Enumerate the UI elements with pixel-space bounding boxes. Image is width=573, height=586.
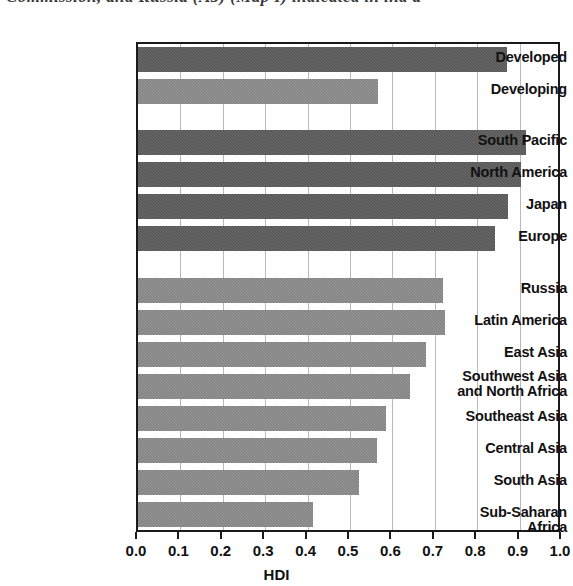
- category-label: South Asia: [443, 473, 573, 488]
- category-label-line: and North Africa: [443, 384, 567, 399]
- x-tick-label: 0.0: [114, 542, 158, 559]
- bar-row: [138, 79, 378, 104]
- category-label: Europe: [443, 229, 573, 244]
- x-axis-title: HDI: [0, 566, 573, 583]
- category-label: Latin America: [443, 313, 573, 328]
- category-label-line: South Pacific: [443, 133, 567, 148]
- category-label-line: Southwest Asia: [443, 369, 567, 384]
- category-label: Developed: [443, 50, 573, 65]
- x-tick-mark: [559, 532, 561, 539]
- x-tick-mark: [389, 532, 391, 539]
- category-label-line: Russia: [443, 281, 567, 296]
- x-tick-label: 0.6: [368, 542, 412, 559]
- category-label: South Pacific: [443, 133, 573, 148]
- bar-row: [138, 374, 410, 399]
- x-tick-mark: [262, 532, 264, 539]
- category-label: Southeast Asia: [443, 409, 573, 424]
- bar-row: [138, 406, 386, 431]
- category-label: Japan: [443, 197, 573, 212]
- bar-developing: [138, 79, 378, 104]
- x-tick-label: 0.8: [453, 542, 497, 559]
- bar-east-asia: [138, 342, 426, 367]
- x-tick-mark: [432, 532, 434, 539]
- x-tick-mark: [305, 532, 307, 539]
- x-tick-label: 0.7: [411, 542, 455, 559]
- category-label-line: Sub-Saharan Africa: [443, 505, 567, 535]
- x-tick-label: 0.1: [156, 542, 200, 559]
- bar-row: [138, 502, 313, 527]
- bar-row: [138, 438, 377, 463]
- bar-sub-saharan-africa: [138, 502, 313, 527]
- x-tick-label: 0.9: [496, 542, 540, 559]
- category-label-line: East Asia: [443, 345, 567, 360]
- bar-row: [138, 226, 495, 251]
- x-tick-mark: [220, 532, 222, 539]
- x-tick-mark: [347, 532, 349, 539]
- category-label: Developing: [443, 82, 573, 97]
- category-label-line: South Asia: [443, 473, 567, 488]
- category-label: Southwest Asiaand North Africa: [443, 369, 573, 399]
- bar-row: [138, 278, 443, 303]
- x-tick-label: 0.2: [199, 542, 243, 559]
- x-tick-mark: [177, 532, 179, 539]
- x-tick-mark: [135, 532, 137, 539]
- x-tick-label: 0.3: [241, 542, 285, 559]
- category-label-line: Europe: [443, 229, 567, 244]
- category-label: Russia: [443, 281, 573, 296]
- category-label-line: Latin America: [443, 313, 567, 328]
- hdi-bar-chart: DevelopedDevelopingSouth PacificNorth Am…: [0, 0, 573, 586]
- category-label: Sub-Saharan Africa: [443, 505, 573, 535]
- category-label: North America: [443, 165, 573, 180]
- x-tick-mark: [474, 532, 476, 539]
- bar-row: [138, 310, 445, 335]
- bar-russia: [138, 278, 443, 303]
- category-label-line: Southeast Asia: [443, 409, 567, 424]
- category-label-line: North America: [443, 165, 567, 180]
- category-label: East Asia: [443, 345, 573, 360]
- bar-southwest-asia-and-north-africa: [138, 374, 410, 399]
- x-tick-mark: [517, 532, 519, 539]
- category-label-line: Developing: [443, 82, 567, 97]
- bar-south-asia: [138, 470, 359, 495]
- category-label-line: Developed: [443, 50, 567, 65]
- bar-row: [138, 342, 426, 367]
- x-axis-title-text: HDI: [264, 566, 290, 583]
- bar-row: [138, 470, 359, 495]
- bar-central-asia: [138, 438, 377, 463]
- category-label-line: Japan: [443, 197, 567, 212]
- bar-latin-america: [138, 310, 445, 335]
- bar-southeast-asia: [138, 406, 386, 431]
- bar-europe: [138, 226, 495, 251]
- x-tick-label: 1.0: [538, 542, 573, 559]
- category-label: Central Asia: [443, 441, 573, 456]
- x-tick-label: 0.4: [284, 542, 328, 559]
- x-tick-label: 0.5: [326, 542, 370, 559]
- category-label-line: Central Asia: [443, 441, 567, 456]
